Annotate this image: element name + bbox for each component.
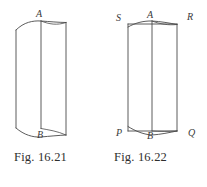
vertex-label-p-fig2: P [116, 128, 122, 138]
figure-page: A B S A R P B Q Fig. 16.21 Fig. 16.22 [0, 0, 207, 187]
figure-16-21-drawing [16, 21, 66, 137]
vertex-label-a-fig2: A [147, 10, 153, 20]
vertex-label-b-fig2: B [147, 131, 153, 141]
fig1-bottom-back-arc [41, 129, 66, 136]
fig2-top-curve [128, 21, 177, 27]
fig2-top-back-arc [152, 21, 177, 25]
vertex-label-q-fig2: Q [188, 128, 195, 138]
vertex-label-b-fig1: B [37, 130, 43, 140]
figure-caption-16-22: Fig. 16.22 [114, 150, 167, 165]
fig1-top-back-arc [41, 21, 66, 24]
fig1-top-curve [16, 21, 66, 30]
figure-caption-16-21: Fig. 16.21 [14, 150, 67, 165]
vertex-label-a-fig1: A [36, 9, 42, 19]
vertex-label-r-fig2: R [187, 12, 193, 22]
vertex-label-s-fig2: S [116, 13, 121, 23]
figure-16-22-drawing [128, 21, 177, 135]
